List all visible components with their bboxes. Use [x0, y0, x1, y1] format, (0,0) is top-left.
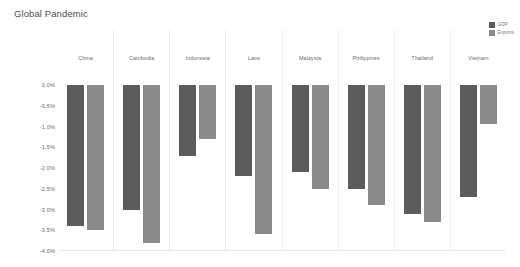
facet-panel-header: China — [58, 30, 113, 85]
bar-exports-laos[interactable] — [255, 85, 272, 234]
bar-gdp-malaysia[interactable] — [292, 85, 309, 172]
facet-panel-thailand: Thailand — [394, 30, 450, 250]
bar-exports-china[interactable] — [87, 85, 104, 230]
facet-panel-plot — [339, 85, 394, 250]
facet-panel-header: Indonesia — [170, 30, 225, 85]
y-axis-tick: -3.0% — [40, 207, 55, 213]
bar-exports-vietnam[interactable] — [480, 85, 497, 124]
facet-panel-title: Thailand — [412, 55, 433, 61]
chart-card: Global Pandemic GDP Exports 0.0%-0.5%-1.… — [0, 0, 520, 267]
page-title: Global Pandemic — [14, 8, 88, 19]
bar-exports-malaysia[interactable] — [312, 85, 329, 189]
facet-panel-plot — [58, 85, 113, 250]
facet-panel-plot — [283, 85, 338, 250]
facet-panels: ChinaCambodiaIndonesiaLaosMalaysiaPhilip… — [58, 30, 506, 251]
bar-exports-thailand[interactable] — [424, 85, 441, 222]
facet-panel-cambodia: Cambodia — [113, 30, 169, 250]
facet-panel-title: Cambodia — [129, 55, 154, 61]
bar-gdp-indonesia[interactable] — [179, 85, 196, 156]
facet-panel-title: Laos — [248, 55, 260, 61]
facet-panel-plot — [395, 85, 450, 250]
facet-panel-indonesia: Indonesia — [169, 30, 225, 250]
facet-panel-header: Malaysia — [283, 30, 338, 85]
facet-panel-title: Malaysia — [299, 55, 321, 61]
plot-area: 0.0%-0.5%-1.0%-1.5%-2.0%-2.5%-3.0%-3.5%-… — [18, 30, 506, 251]
facet-panel-title: Vietnam — [468, 55, 488, 61]
bar-gdp-thailand[interactable] — [404, 85, 421, 214]
facet-panel-plot — [451, 85, 506, 250]
y-axis-tick: -3.5% — [40, 227, 55, 233]
bar-gdp-cambodia[interactable] — [123, 85, 140, 210]
y-axis: 0.0%-0.5%-1.0%-1.5%-2.0%-2.5%-3.0%-3.5%-… — [18, 30, 58, 251]
bar-exports-indonesia[interactable] — [199, 85, 216, 139]
facet-panel-header: Philippines — [339, 30, 394, 85]
facet-panel-china: China — [58, 30, 113, 250]
facet-panel-title: Philippines — [353, 55, 380, 61]
y-axis-tick: -2.0% — [40, 165, 55, 171]
y-axis-tick: -2.5% — [40, 186, 55, 192]
facet-panel-title: Indonesia — [186, 55, 210, 61]
bar-gdp-china[interactable] — [67, 85, 84, 226]
facet-panel-header: Thailand — [395, 30, 450, 85]
bar-gdp-philippines[interactable] — [348, 85, 365, 189]
legend-item-gdp[interactable]: GDP — [489, 22, 514, 28]
facet-panel-malaysia: Malaysia — [282, 30, 338, 250]
facet-panel-philippines: Philippines — [338, 30, 394, 250]
facet-panel-header: Vietnam — [451, 30, 506, 85]
facet-panel-laos: Laos — [225, 30, 281, 250]
facet-panel-plot — [226, 85, 281, 250]
legend-label-gdp: GDP — [498, 23, 508, 28]
bar-exports-philippines[interactable] — [368, 85, 385, 205]
bar-gdp-laos[interactable] — [235, 85, 252, 176]
y-axis-tick: -1.0% — [40, 124, 55, 130]
facet-panel-header: Laos — [226, 30, 281, 85]
y-axis-tick: -1.5% — [40, 144, 55, 150]
legend-swatch-gdp — [489, 22, 495, 28]
facet-panel-vietnam: Vietnam — [450, 30, 506, 250]
y-axis-tick: 0.0% — [42, 82, 55, 88]
facet-panel-title: China — [78, 55, 93, 61]
facet-panel-header: Cambodia — [114, 30, 169, 85]
bar-gdp-vietnam[interactable] — [460, 85, 477, 197]
y-axis-tick: -4.0% — [40, 248, 55, 254]
bar-exports-cambodia[interactable] — [143, 85, 160, 243]
facet-panel-plot — [114, 85, 169, 250]
facet-panel-plot — [170, 85, 225, 250]
y-axis-tick: -0.5% — [40, 103, 55, 109]
